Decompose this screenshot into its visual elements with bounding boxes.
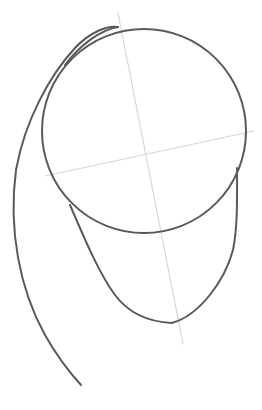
vertical-center-guide: [118, 13, 183, 344]
cranium-circle: [42, 29, 246, 233]
head-sketch: [0, 0, 262, 410]
hair-strand-line: [14, 27, 118, 385]
hair-overlap-line: [65, 27, 118, 65]
horizontal-eye-guide: [45, 131, 254, 176]
sketch-canvas: [0, 0, 262, 410]
